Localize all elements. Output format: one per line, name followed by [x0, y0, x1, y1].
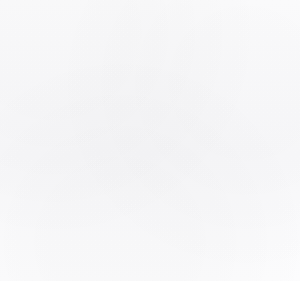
x-tick-label: 30 — [215, 234, 227, 246]
y-tick-label: 60% — [1, 67, 41, 79]
x-tick-label: 20 — [191, 234, 203, 246]
x-tick-label: 30 — [81, 234, 93, 246]
bar-women-2000-age20: 6 — [249, 213, 267, 229]
gridline — [46, 21, 286, 22]
bar-men-2000-age20: 2 — [115, 224, 133, 229]
x-group-label: 2000 — [257, 250, 280, 262]
bar-value-label: 9 — [61, 194, 67, 206]
x-group-label: 1960 — [63, 250, 86, 262]
bar-value-label: 6 — [255, 201, 261, 213]
x-tick-label: 20 — [117, 234, 129, 246]
y-tick-label: 80% — [1, 15, 41, 27]
x-tick-label: 30 — [275, 234, 287, 246]
bar-value-label: 77 — [216, 16, 228, 28]
legend-label: Women — [137, 44, 175, 56]
legend-item-men: Men — [120, 28, 175, 40]
x-tick-label: 20 — [251, 234, 263, 246]
bar-value-label: 31 — [142, 136, 154, 148]
bar-women-1960-age30: 77 — [213, 28, 231, 229]
bar-men-1960-age30: 65 — [79, 59, 97, 229]
bar-value-label: 65 — [82, 47, 94, 59]
bar-women-2000-age30: 46 — [273, 109, 291, 229]
x-tick-label: 30 — [141, 234, 153, 246]
women-color-swatch — [120, 45, 131, 56]
age-axis-label: Age — [31, 234, 51, 246]
bar-women-1960-age20: 29 — [189, 153, 207, 229]
men-color-swatch — [120, 29, 131, 40]
bar-men-2000-age30: 31 — [139, 148, 157, 229]
grouped-bar-chart: 80%60%40%20%0 9652312977646 Age 20302030… — [0, 0, 300, 281]
x-tick-label: 20 — [57, 234, 69, 246]
chart-legend: MenWomen — [120, 28, 175, 56]
bar-value-label: 2 — [121, 212, 127, 224]
x-group-label: 2000 — [123, 250, 146, 262]
bar-value-label: 46 — [276, 97, 288, 109]
legend-label: Men — [137, 28, 159, 40]
y-tick-label: 20% — [1, 172, 41, 184]
legend-item-women: Women — [120, 44, 175, 56]
bar-value-label: 29 — [192, 141, 204, 153]
x-group-label: 1960 — [197, 250, 220, 262]
y-tick-label: 40% — [1, 120, 41, 132]
bar-men-1960-age20: 9 — [55, 206, 73, 230]
y-axis-tick-labels: 80%60%40%20%0 — [0, 21, 41, 230]
